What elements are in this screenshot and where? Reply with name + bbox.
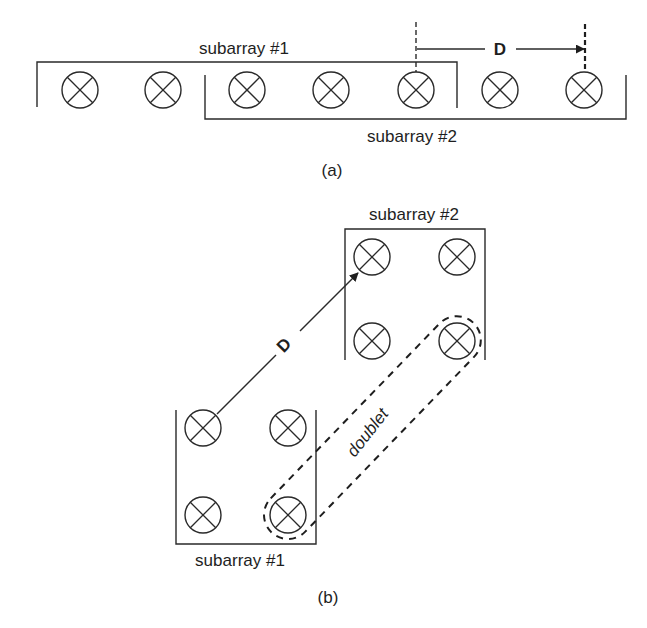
spacing-label-d-b: D	[273, 334, 295, 356]
antenna-element-icon	[145, 72, 181, 108]
subarray-2-label-b: subarray #2	[369, 205, 459, 224]
antenna-element-icon	[270, 410, 306, 446]
antenna-element-icon	[62, 72, 98, 108]
spacing-arrow-lower-segment	[217, 355, 276, 414]
caption-b: (b)	[318, 588, 339, 607]
spacing-label-d: D	[494, 40, 506, 59]
subarray-1-label-b: subarray #1	[195, 551, 285, 570]
antenna-element-icon	[229, 72, 265, 108]
antenna-element-icon	[185, 497, 221, 533]
antenna-element-icon	[482, 72, 518, 108]
antenna-subarray-figure: subarray #1 subarray #2 D (a) subarray #…	[0, 0, 647, 628]
antenna-element-icon	[398, 72, 434, 108]
caption-a: (a)	[322, 161, 343, 180]
antenna-element-icon	[313, 72, 349, 108]
figure-canvas: subarray #1 subarray #2 D (a) subarray #…	[0, 0, 647, 628]
antenna-element-icon	[439, 323, 475, 359]
linear-array-elements	[62, 72, 602, 108]
spacing-arrow-upper-segment	[300, 273, 358, 331]
subarray-2-elements	[354, 239, 475, 359]
antenna-element-icon	[270, 497, 306, 533]
panel-b: subarray #2 subarray #1 doublet D (b)	[176, 205, 491, 607]
subarray-1-label: subarray #1	[199, 39, 289, 58]
antenna-element-icon	[566, 72, 602, 108]
antenna-element-icon	[354, 239, 390, 275]
subarray-2-label: subarray #2	[367, 127, 457, 146]
doublet-label: doublet	[343, 404, 393, 461]
subarray-1-elements	[185, 410, 306, 533]
panel-a: subarray #1 subarray #2 D (a)	[37, 22, 626, 180]
antenna-element-icon	[185, 410, 221, 446]
antenna-element-icon	[439, 239, 475, 275]
antenna-element-icon	[354, 323, 390, 359]
